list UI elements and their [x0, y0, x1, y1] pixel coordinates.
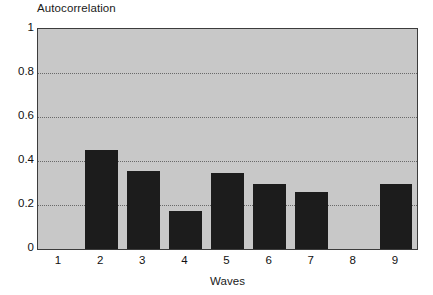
x-axis-tick-labels: 123456789 [37, 254, 418, 270]
y-tick-label: 0.6 [1, 110, 34, 121]
plot-area [37, 28, 418, 250]
x-tick-label: 3 [121, 254, 163, 267]
x-tick-label: 1 [37, 254, 79, 267]
y-tick-label: 0.8 [1, 66, 34, 77]
x-tick-label: 9 [374, 254, 416, 267]
bar-9 [380, 184, 413, 249]
bar-5 [211, 173, 244, 249]
bar-7 [295, 192, 328, 249]
x-tick-label: 2 [79, 254, 121, 267]
y-tick-label: 1 [1, 22, 34, 33]
x-tick-label: 7 [290, 254, 332, 267]
bars-layer [38, 29, 417, 249]
y-tick-label: 0.2 [1, 198, 34, 209]
y-tick-label: 0.4 [1, 154, 34, 165]
x-tick-label: 5 [205, 254, 247, 267]
bar-3 [127, 171, 160, 249]
x-axis-title: Waves [37, 275, 418, 287]
bar-6 [253, 184, 286, 249]
bar-2 [85, 150, 118, 249]
y-axis-tick-labels: 10.80.60.40.20 [0, 28, 34, 250]
x-tick-label: 8 [332, 254, 374, 267]
bar-4 [169, 211, 202, 250]
autocorrelation-bar-chart: Autocorrelation 10.80.60.40.20 123456789… [0, 0, 433, 295]
y-tick-label: 0 [1, 242, 34, 253]
x-tick-label: 6 [248, 254, 290, 267]
y-axis-title: Autocorrelation [37, 2, 116, 14]
x-tick-label: 4 [163, 254, 205, 267]
